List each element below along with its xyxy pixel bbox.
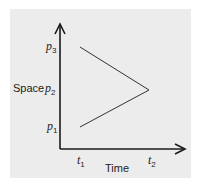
y-tick-p2: p2: [45, 82, 55, 97]
x-tick-t2: t2: [148, 154, 156, 169]
y-tick-p3: p3: [46, 40, 56, 55]
x-tick-t1: t1: [77, 154, 85, 169]
y-axis-label: Space: [13, 83, 44, 94]
x-axis-label: Time: [105, 163, 129, 174]
trajectory-line: [80, 47, 149, 127]
y-tick-p1: p1: [47, 120, 57, 135]
